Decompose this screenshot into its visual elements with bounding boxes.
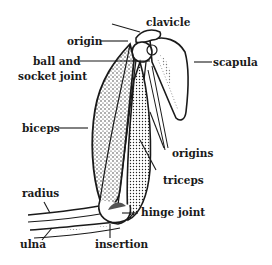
label-insertion: insertion <box>95 238 148 250</box>
label-ball-and-socket-line1: ball and <box>33 55 81 67</box>
label-origin: origin <box>67 35 103 47</box>
label-hinge-joint: hinge joint <box>141 206 205 218</box>
label-ball-and-socket-line2: socket joint <box>18 70 87 82</box>
label-scapula: scapula <box>213 56 258 68</box>
arm-muscle-diagram: clavicle origin ball and socket joint sc… <box>0 0 272 265</box>
humerus-head <box>132 42 152 62</box>
label-biceps: biceps <box>22 122 60 134</box>
label-clavicle: clavicle <box>146 16 190 28</box>
radius-bone <box>28 204 110 215</box>
label-origins: origins <box>172 147 213 159</box>
label-ulna: ulna <box>20 238 46 250</box>
label-triceps: triceps <box>163 174 204 186</box>
ulna-bone <box>30 222 118 230</box>
label-radius: radius <box>22 187 59 199</box>
